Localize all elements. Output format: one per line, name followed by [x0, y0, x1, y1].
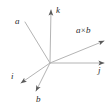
vector-line-b — [36, 63, 50, 91]
vector-label-j: j — [98, 66, 101, 75]
vector-line-i — [21, 63, 50, 83]
vector-cross-product-figure: a k a×b j i b — [0, 0, 111, 110]
vector-line-a-cross-b — [50, 41, 104, 63]
vector-label-k: k — [56, 6, 60, 15]
vector-label-a: a — [15, 17, 20, 26]
vector-label-a-cross-b: a×b — [76, 26, 91, 35]
vector-label-i: i — [11, 72, 14, 81]
vector-line-a — [25, 22, 50, 63]
vector-label-a-cross-b-operand-a: a — [76, 25, 81, 35]
vector-label-b: b — [36, 95, 41, 104]
vector-label-a-cross-b-operand-b: b — [86, 25, 91, 35]
vector-line-k — [50, 10, 51, 63]
